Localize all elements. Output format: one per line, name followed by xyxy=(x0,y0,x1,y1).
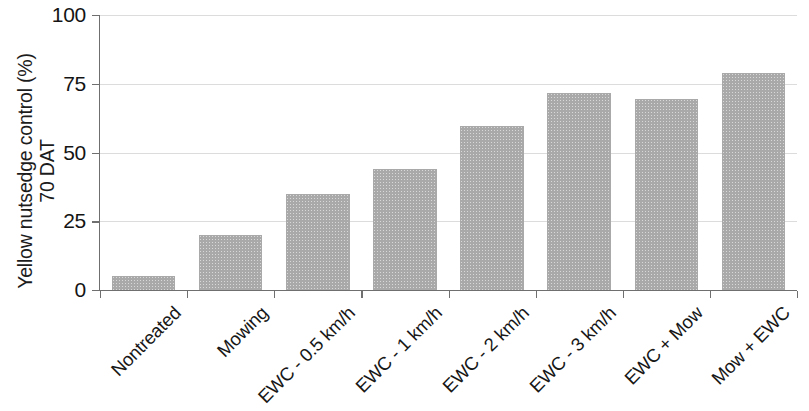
x-tick-mark-0 xyxy=(100,291,101,298)
bar xyxy=(635,99,699,290)
plot-area xyxy=(100,15,797,290)
bar xyxy=(373,169,437,290)
x-tick-mark-1 xyxy=(187,291,188,298)
y-tick-label-25: 25 xyxy=(26,209,86,233)
bar xyxy=(199,235,263,290)
x-tick-mark-5 xyxy=(536,291,537,298)
bar-chart-figure: Yellow nutsedge control (%) 70 DAT 02550… xyxy=(0,0,809,411)
bar xyxy=(460,126,524,290)
x-category-label: Nontreated xyxy=(0,302,185,411)
gridline-75 xyxy=(100,84,797,85)
bar xyxy=(547,93,611,290)
x-tick-mark-2 xyxy=(274,291,275,298)
y-tick-mark-50 xyxy=(92,153,99,154)
y-tick-label-100: 100 xyxy=(26,3,86,27)
gridline-100 xyxy=(100,15,797,16)
bar xyxy=(112,276,176,290)
x-tick-mark-6 xyxy=(623,291,624,298)
y-tick-mark-25 xyxy=(92,221,99,222)
y-tick-mark-75 xyxy=(92,84,99,85)
y-tick-label-0: 0 xyxy=(26,278,86,302)
y-tick-mark-100 xyxy=(92,15,99,16)
x-tick-mark-8 xyxy=(797,291,798,298)
x-tick-mark-7 xyxy=(710,291,711,298)
y-tick-label-75: 75 xyxy=(26,72,86,96)
x-tick-mark-3 xyxy=(361,291,362,298)
x-tick-mark-4 xyxy=(449,291,450,298)
bar xyxy=(286,194,350,290)
y-axis-title: Yellow nutsedge control (%) 70 DAT xyxy=(9,26,65,316)
y-tick-mark-0 xyxy=(92,290,99,291)
bar xyxy=(722,73,786,290)
y-tick-label-50: 50 xyxy=(26,141,86,165)
